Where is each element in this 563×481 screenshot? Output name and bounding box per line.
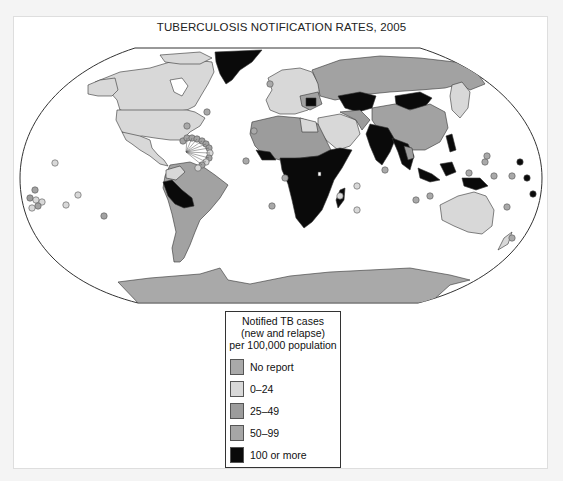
legend-swatch-0-24: [230, 381, 244, 397]
legend-item-25-49: 25–49: [230, 400, 340, 422]
legend-item-no-report: No report: [230, 356, 340, 378]
legend-label: No report: [250, 361, 294, 373]
legend-label: 50–99: [250, 427, 279, 439]
legend-heading-line2: (new and relapse): [226, 327, 340, 339]
legend-heading-line3: per 100,000 population: [226, 339, 340, 351]
legend-label: 0–24: [250, 383, 273, 395]
legend-heading-line1: Notified TB cases: [226, 315, 340, 327]
legend-item-0-24: 0–24: [230, 378, 340, 400]
legend-swatch-25-49: [230, 403, 244, 419]
legend-item-50-99: 50–99: [230, 422, 340, 444]
legend-heading: Notified TB cases (new and relapse) per …: [226, 312, 340, 351]
legend-label: 100 or more: [250, 449, 307, 461]
legend-swatch-50-99: [230, 425, 244, 441]
map-legend: Notified TB cases (new and relapse) per …: [225, 311, 341, 468]
legend-item-100-or-more: 100 or more: [230, 444, 340, 466]
legend-swatch-100-or-more: [230, 447, 244, 463]
legend-swatch-no-report: [230, 359, 244, 375]
legend-label: 25–49: [250, 405, 279, 417]
